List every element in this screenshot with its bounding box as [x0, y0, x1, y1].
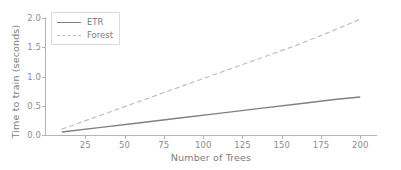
- chart-legend[interactable]: ETR Forest: [51, 12, 120, 45]
- y-axis-label: Time to train (seconds): [10, 17, 21, 147]
- legend-label-etr: ETR: [87, 17, 103, 27]
- legend-item-forest[interactable]: Forest: [57, 30, 113, 40]
- legend-item-etr[interactable]: ETR: [57, 17, 113, 27]
- chart-figure: 0.00.51.01.52.0 255075100125150175200 ET…: [0, 0, 401, 170]
- series-line-etr: [62, 97, 361, 132]
- legend-swatch-etr: [57, 22, 81, 23]
- x-axis-label: Number of Trees: [46, 152, 376, 163]
- legend-swatch-forest: [57, 35, 81, 36]
- legend-label-forest: Forest: [87, 30, 113, 40]
